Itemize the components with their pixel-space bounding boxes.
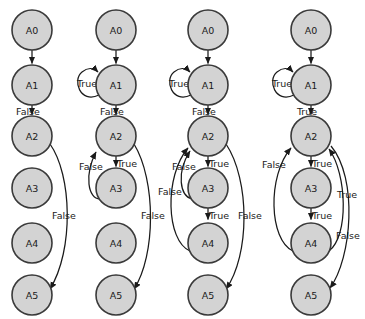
edge-label-a4-a2: False: [158, 186, 182, 197]
node-a1[interactable]: A1: [291, 65, 331, 105]
node-a5-label: A5: [26, 290, 39, 301]
node-a1-label: A1: [26, 80, 39, 91]
node-a1-label: A1: [202, 80, 215, 91]
node-a3[interactable]: A3: [96, 168, 136, 208]
node-a0[interactable]: A0: [291, 10, 331, 50]
node-a3[interactable]: A3: [12, 168, 52, 208]
node-a5[interactable]: A5: [96, 275, 136, 315]
node-a4[interactable]: A4: [96, 223, 136, 263]
node-a5-label: A5: [305, 290, 318, 301]
node-a5[interactable]: A5: [291, 275, 331, 315]
node-a5[interactable]: A5: [188, 275, 228, 315]
edge-label-a1-self-loop: True: [168, 78, 189, 89]
edge-label-a2-a5: False: [141, 210, 165, 221]
node-a3-label: A3: [26, 183, 39, 194]
node-a5[interactable]: A5: [12, 275, 52, 315]
node-a0[interactable]: A0: [188, 10, 228, 50]
node-a2[interactable]: A2: [291, 116, 331, 156]
node-a4-label: A4: [110, 238, 123, 249]
edge-label-a2-a3: True: [311, 158, 332, 169]
edge-label-a3-a4: True: [208, 210, 229, 221]
node-a2-label: A2: [305, 131, 318, 142]
node-a1-label: A1: [305, 80, 318, 91]
node-a2-label: A2: [26, 131, 39, 142]
node-a2-label: A2: [202, 131, 215, 142]
edge-label-a2-a3: True: [208, 158, 229, 169]
node-a3[interactable]: A3: [291, 168, 331, 208]
edge-label-a1-a2: False: [100, 106, 124, 117]
edge-label-a4-a5: False: [336, 230, 360, 241]
panel-1: False False A0 A1 A2 A3 A4 A5: [12, 10, 76, 315]
node-a4-label: A4: [202, 238, 215, 249]
edge-label-a3-a2: False: [79, 161, 103, 172]
node-a0[interactable]: A0: [12, 10, 52, 50]
node-a4-label: A4: [305, 238, 318, 249]
node-a0-label: A0: [110, 25, 123, 36]
state-machine-figure: False False A0 A1 A2 A3 A4 A5: [0, 0, 365, 319]
diagram-canvas: False False A0 A1 A2 A3 A4 A5: [0, 0, 365, 319]
node-a5-label: A5: [202, 290, 215, 301]
node-a3-label: A3: [110, 183, 123, 194]
node-a1[interactable]: A1: [188, 65, 228, 105]
node-a1-label: A1: [110, 80, 123, 91]
edge-label-a2-a3: True: [116, 158, 137, 169]
node-a2[interactable]: A2: [188, 116, 228, 156]
edge-label-a2-a5: False: [238, 210, 262, 221]
edge-label-a1-self-loop: True: [271, 78, 292, 89]
node-a4[interactable]: A4: [12, 223, 52, 263]
panel-2: True False True False False A0 A1 A2 A3 …: [76, 10, 165, 315]
node-a0-label: A0: [26, 25, 39, 36]
edge-a4-a5: [330, 146, 349, 288]
edge-label-a2-a5: False: [52, 210, 76, 221]
node-a5-label: A5: [110, 290, 123, 301]
node-a1[interactable]: A1: [12, 65, 52, 105]
node-a1[interactable]: A1: [96, 65, 136, 105]
node-a0-label: A0: [202, 25, 215, 36]
node-a2[interactable]: A2: [96, 116, 136, 156]
edge-label-a1-a2: False: [192, 106, 216, 117]
edge-label-a4-a2-false: False: [262, 159, 286, 170]
node-a4[interactable]: A4: [188, 223, 228, 263]
panel-3: True False True False True False False A…: [158, 10, 262, 315]
node-a0-label: A0: [305, 25, 318, 36]
edge-label-a4-a2-true: True: [336, 189, 357, 200]
node-a4-label: A4: [26, 238, 39, 249]
node-a3[interactable]: A3: [188, 168, 228, 208]
node-a3-label: A3: [202, 183, 215, 194]
edge-label-a3-a4: True: [311, 210, 332, 221]
panel-4: True True True True False True False A0 …: [262, 10, 360, 315]
node-a0[interactable]: A0: [96, 10, 136, 50]
node-a4[interactable]: A4: [291, 223, 331, 263]
edge-label-a1-a2: True: [296, 106, 317, 117]
edge-label-a3-a2: False: [172, 161, 196, 172]
node-a2-label: A2: [110, 131, 123, 142]
edge-label-a1-a2: False: [16, 106, 40, 117]
node-a2[interactable]: A2: [12, 116, 52, 156]
node-a3-label: A3: [305, 183, 318, 194]
edge-label-a1-self-loop: True: [76, 78, 97, 89]
